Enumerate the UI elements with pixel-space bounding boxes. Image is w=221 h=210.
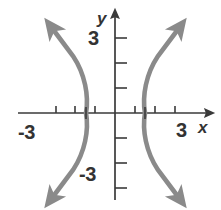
graph-canvas — [0, 0, 221, 210]
x-axis-label: x — [198, 119, 207, 136]
right-branch-upper-arm — [144, 28, 179, 113]
right-branch-lower-arm — [144, 113, 179, 198]
y-axis-label: y — [97, 10, 106, 27]
left-branch-upper-arm — [52, 28, 87, 113]
y-tick-label-positive-3: 3 — [88, 28, 99, 48]
axes-group — [18, 17, 206, 200]
y-tick-label-negative-3: -3 — [79, 164, 96, 184]
left-branch-lower-arm — [52, 113, 87, 198]
x-tick-label-positive-3: 3 — [176, 120, 187, 140]
x-tick-label-negative-3: -3 — [18, 122, 35, 142]
hyperbola-figure: y 3 -3 -3 3 x — [0, 0, 221, 210]
